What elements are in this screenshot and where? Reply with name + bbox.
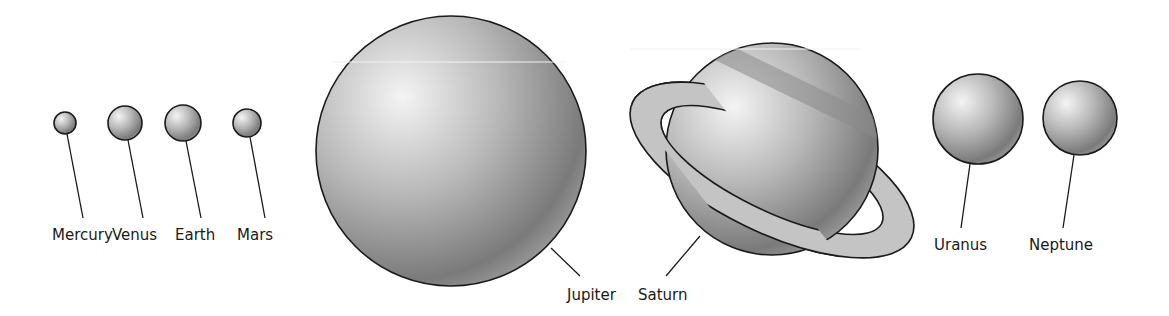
planet-mars: Mars bbox=[233, 109, 273, 244]
mercury-sphere bbox=[54, 112, 76, 134]
neptune-leader-line bbox=[1063, 155, 1074, 228]
planet-venus: Venus bbox=[108, 106, 157, 244]
uranus-sphere bbox=[933, 74, 1023, 164]
jupiter-leader-line bbox=[551, 248, 580, 276]
planet-uranus: Uranus bbox=[933, 74, 1023, 254]
neptune-label: Neptune bbox=[1029, 236, 1093, 254]
mars-leader-line bbox=[250, 137, 265, 218]
earth-sphere bbox=[165, 105, 201, 141]
jupiter-sphere bbox=[316, 16, 586, 286]
earth-leader-line bbox=[186, 141, 201, 218]
saturn-leader-line bbox=[666, 236, 700, 276]
planet-saturn: Saturn bbox=[606, 18, 939, 304]
planet-neptune: Neptune bbox=[1029, 81, 1117, 254]
planet-size-diagram: MercuryVenusEarthMarsJupiterSaturnUranus… bbox=[0, 0, 1169, 316]
mercury-label: Mercury bbox=[52, 226, 113, 244]
planet-jupiter: Jupiter bbox=[316, 16, 617, 304]
venus-leader-line bbox=[128, 140, 143, 218]
mars-label: Mars bbox=[237, 226, 273, 244]
venus-sphere bbox=[108, 106, 142, 140]
neptune-sphere bbox=[1043, 81, 1117, 155]
planet-mercury: Mercury bbox=[52, 112, 113, 244]
mercury-leader-line bbox=[67, 134, 83, 218]
planets-layer: MercuryVenusEarthMarsJupiterSaturnUranus… bbox=[52, 16, 1117, 304]
uranus-leader-line bbox=[961, 164, 970, 228]
planet-earth: Earth bbox=[165, 105, 215, 244]
earth-label: Earth bbox=[175, 226, 215, 244]
venus-label: Venus bbox=[112, 226, 157, 244]
uranus-label: Uranus bbox=[934, 236, 987, 254]
jupiter-label: Jupiter bbox=[566, 286, 617, 304]
mars-sphere bbox=[233, 109, 261, 137]
saturn-label: Saturn bbox=[638, 286, 688, 304]
